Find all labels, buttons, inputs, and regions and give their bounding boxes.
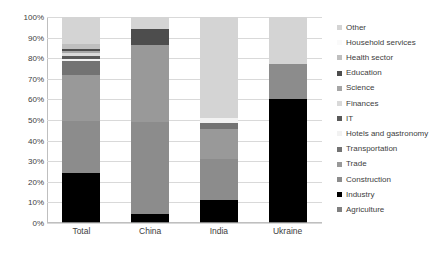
legend-item-label: Hotels and gastronomy — [346, 130, 428, 138]
legend-item[interactable]: Other — [337, 20, 445, 35]
legend-item-label: Science — [346, 84, 374, 92]
legend-swatch-icon — [337, 207, 342, 212]
legend-item-label: Industry — [346, 191, 374, 199]
legend-swatch-icon — [337, 101, 342, 106]
bar-segment[interactable] — [131, 45, 169, 121]
legend-item-label: Household services — [346, 39, 416, 47]
bar-segment[interactable] — [62, 51, 100, 53]
x-axis-tick-label: Total — [72, 226, 90, 236]
legend-item[interactable]: Construction — [337, 172, 445, 187]
legend-swatch-icon — [337, 131, 342, 136]
stacked-bar[interactable] — [269, 17, 307, 223]
bar-group[interactable] — [269, 17, 307, 223]
bar-group[interactable] — [62, 17, 100, 223]
legend-swatch-icon — [337, 71, 342, 76]
plot-area — [47, 17, 322, 223]
bar-group[interactable] — [200, 17, 238, 223]
y-axis-tick-label: 50% — [4, 116, 44, 125]
bar-segment[interactable] — [131, 29, 169, 45]
bar-segment[interactable] — [200, 222, 238, 223]
chart-legend: OtherHousehold servicesHealth sectorEduc… — [337, 20, 445, 235]
bar-segment[interactable] — [200, 200, 238, 222]
legend-item[interactable]: Hotels and gastronomy — [337, 126, 445, 141]
legend-item[interactable]: Education — [337, 66, 445, 81]
x-axis-tick-label: India — [210, 226, 228, 236]
legend-item[interactable]: Transportation — [337, 142, 445, 157]
bar-segment[interactable] — [131, 222, 169, 223]
bar-segment[interactable] — [62, 222, 100, 223]
x-axis-tick-label: Ukraine — [273, 226, 302, 236]
y-axis-tick-label: 70% — [4, 74, 44, 83]
legend-item-label: IT — [346, 115, 353, 123]
legend-swatch-icon — [337, 86, 342, 91]
legend-swatch-icon — [337, 177, 342, 182]
legend-item[interactable]: Trade — [337, 157, 445, 172]
legend-item-label: Health sector — [346, 54, 393, 62]
y-axis-tick-label: 30% — [4, 157, 44, 166]
bar-segment[interactable] — [62, 75, 100, 121]
bar-segment[interactable] — [62, 56, 100, 59]
bar-group[interactable] — [131, 17, 169, 223]
bar-segment[interactable] — [62, 49, 100, 51]
legend-item-label: Transportation — [346, 145, 397, 153]
y-axis: 0%10%20%30%40%50%60%70%80%90%100% — [0, 17, 44, 223]
bar-segment[interactable] — [269, 99, 307, 222]
legend-swatch-icon — [337, 25, 342, 30]
bar-segment[interactable] — [269, 64, 307, 99]
bar-segment[interactable] — [62, 61, 100, 74]
legend-item[interactable]: IT — [337, 111, 445, 126]
legend-item-label: Construction — [346, 176, 391, 184]
bar-segment[interactable] — [62, 59, 100, 61]
stacked-bar[interactable] — [131, 17, 169, 223]
y-axis-tick-label: 90% — [4, 33, 44, 42]
bar-segment[interactable] — [62, 44, 100, 49]
bar-segment[interactable] — [62, 121, 100, 173]
y-axis-tick-label: 0% — [4, 219, 44, 228]
y-axis-tick-label: 60% — [4, 95, 44, 104]
legend-item-label: Agriculture — [346, 206, 384, 214]
bar-segment[interactable] — [62, 17, 100, 44]
bar-segment[interactable] — [200, 123, 238, 129]
bar-segment[interactable] — [200, 129, 238, 159]
bar-segment[interactable] — [200, 17, 238, 118]
bar-segment[interactable] — [131, 17, 169, 29]
bar-segment[interactable] — [200, 118, 238, 123]
bar-segment[interactable] — [62, 53, 100, 56]
bar-segment[interactable] — [200, 159, 238, 200]
y-axis-tick-label: 80% — [4, 54, 44, 63]
stacked-bar[interactable] — [62, 17, 100, 223]
legend-swatch-icon — [337, 116, 342, 121]
bar-segment[interactable] — [269, 222, 307, 223]
legend-swatch-icon — [337, 40, 342, 45]
legend-item[interactable]: Household services — [337, 35, 445, 50]
y-axis-tick-label: 20% — [4, 177, 44, 186]
x-axis-tick-label: China — [139, 226, 161, 236]
chart-container: 0%10%20%30%40%50%60%70%80%90%100% TotalC… — [0, 0, 445, 258]
bar-segment[interactable] — [131, 214, 169, 222]
y-axis-tick-label: 40% — [4, 136, 44, 145]
legend-item-label: Other — [346, 24, 366, 32]
legend-item-label: Finances — [346, 100, 378, 108]
legend-swatch-icon — [337, 162, 342, 167]
y-axis-tick-label: 100% — [4, 13, 44, 22]
legend-item-label: Education — [346, 69, 382, 77]
bar-segment[interactable] — [131, 122, 169, 215]
legend-item[interactable]: Health sector — [337, 50, 445, 65]
legend-swatch-icon — [337, 192, 342, 197]
legend-item[interactable]: Science — [337, 81, 445, 96]
y-axis-tick-label: 10% — [4, 198, 44, 207]
legend-swatch-icon — [337, 147, 342, 152]
chart-title — [60, 0, 260, 11]
legend-swatch-icon — [337, 55, 342, 60]
bar-segment[interactable] — [62, 173, 100, 222]
legend-item[interactable]: Industry — [337, 187, 445, 202]
legend-item-label: Trade — [346, 160, 367, 168]
stacked-bar[interactable] — [200, 17, 238, 223]
gridline — [47, 223, 322, 224]
bar-segment[interactable] — [269, 17, 307, 64]
legend-item[interactable]: Agriculture — [337, 202, 445, 217]
legend-item[interactable]: Finances — [337, 96, 445, 111]
x-axis: TotalChinaIndiaUkraine — [47, 226, 322, 242]
